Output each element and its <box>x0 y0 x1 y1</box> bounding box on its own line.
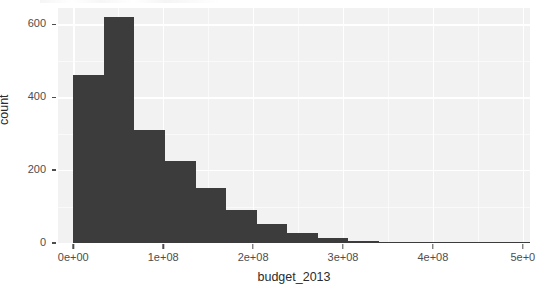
x-axis-tick-label: 4e+08 <box>417 252 448 263</box>
x-axis-tick-mark <box>73 244 74 249</box>
x-axis-tick-mark <box>522 244 523 249</box>
x-axis-tick-label: 2e+08 <box>238 252 269 263</box>
histogram-chart: 0200400600 0e+001e+082e+083e+084e+085e+0… <box>0 0 539 297</box>
x-axis-ticks: 0e+001e+082e+083e+084e+085e+0 <box>0 0 539 297</box>
x-axis-tick-mark <box>162 244 163 249</box>
x-axis-tick-label: 3e+08 <box>328 252 359 263</box>
x-axis-tick-mark <box>342 244 343 249</box>
x-axis-title: budget_2013 <box>58 270 530 284</box>
x-axis-tick-label: 5e+0 <box>510 252 535 263</box>
x-axis-tick-label: 1e+08 <box>148 252 179 263</box>
x-axis-tick-label: 0e+00 <box>58 252 89 263</box>
x-axis-tick-mark <box>432 244 433 249</box>
x-axis-tick-mark <box>252 244 253 249</box>
y-axis-title: count <box>0 94 11 125</box>
